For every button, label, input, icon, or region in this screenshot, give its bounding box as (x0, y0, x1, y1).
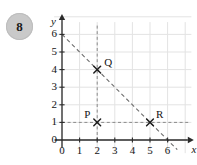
y-tick-label: 1 (43, 115, 57, 127)
point-label-q: Q (104, 56, 112, 68)
coordinate-plot: 01234560123456 QPR y x (0, 0, 197, 165)
y-tick-label: 5 (43, 45, 57, 57)
y-tick-label: 6 (43, 27, 57, 39)
x-tick-label: 3 (108, 144, 122, 156)
y-tick-label: 3 (43, 80, 57, 92)
x-tick-label: 5 (143, 144, 157, 156)
y-tick-label: 0 (43, 133, 57, 145)
y-tick-label: 4 (43, 63, 57, 75)
x-axis-label: x (192, 143, 197, 155)
x-tick-label: 6 (161, 144, 175, 156)
y-axis-label: y (51, 15, 56, 27)
x-tick-label: 0 (55, 144, 69, 156)
x-tick-label: 2 (90, 144, 104, 156)
point-label-r: R (156, 108, 163, 120)
x-tick-label: 1 (73, 144, 87, 156)
plot-svg (0, 0, 197, 165)
gridlines (54, 17, 191, 153)
figure-root: 8 01234560123456 QPR y x (0, 0, 197, 165)
y-tick-label: 2 (43, 98, 57, 110)
axis-ticks (59, 34, 167, 142)
x-tick-label: 4 (125, 144, 139, 156)
point-label-p: P (84, 108, 90, 120)
